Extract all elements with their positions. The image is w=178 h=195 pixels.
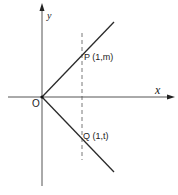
point-q-label: Q (1,t) bbox=[83, 132, 109, 141]
diagram-canvas bbox=[0, 0, 178, 195]
y-axis-arrow-icon bbox=[40, 3, 45, 11]
y-axis-label: y bbox=[47, 11, 51, 21]
x-axis-arrow-icon bbox=[167, 95, 175, 100]
origin-label: O bbox=[32, 99, 40, 109]
coordinate-diagram: y x O P (1,m) Q (1,t) bbox=[0, 0, 178, 195]
origin-point bbox=[40, 95, 43, 98]
x-axis-label: x bbox=[155, 84, 160, 96]
point-p-label: P (1,m) bbox=[84, 53, 113, 62]
